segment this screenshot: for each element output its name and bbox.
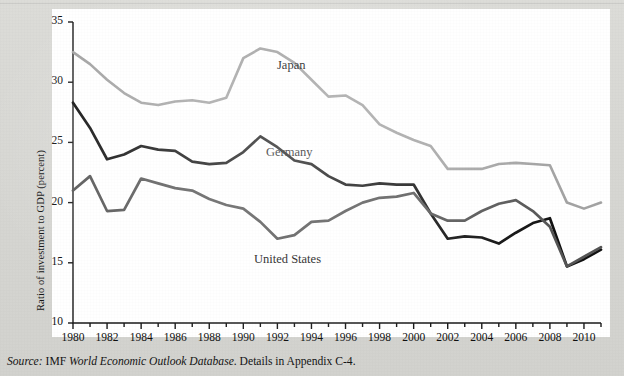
series-label-germany: Germany [266, 145, 313, 160]
y-tick-label: 20 [37, 195, 63, 207]
y-tick-label: 30 [37, 74, 63, 86]
y-tick-label: 10 [37, 315, 63, 327]
series-label-united-states: United States [254, 252, 321, 267]
y-tick-label: 25 [37, 134, 63, 146]
axis-group [73, 22, 601, 323]
source-body-2: . Details in Appendix C-4. [234, 355, 356, 368]
source-caption: Source: IMF World Economic Outlook Datab… [7, 355, 356, 368]
chart-container: Ratio of investment to GDP (percent) 353… [0, 0, 624, 376]
series-line-japan [73, 48, 601, 208]
source-body-1: IMF [43, 355, 69, 368]
source-title: World Economic Outlook Database [69, 355, 234, 368]
series-label-japan: Japan [277, 58, 305, 73]
data-lines [73, 48, 601, 266]
y-tick-label: 15 [37, 255, 63, 267]
y-tick-label: 35 [37, 14, 63, 26]
x-tick-marks [73, 323, 601, 329]
series-line-united-states [73, 176, 601, 266]
series-line-germany [73, 103, 601, 267]
y-tick-marks [68, 22, 73, 323]
x-tick-label: 2010 [564, 331, 604, 343]
line-chart-svg [0, 0, 624, 376]
source-prefix: Source: [7, 355, 43, 368]
